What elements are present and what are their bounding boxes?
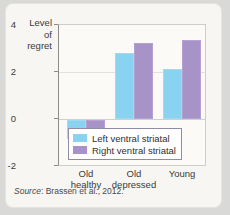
source-caption-text: : Brassen et al., 2012.	[41, 186, 124, 196]
y-axis-title: Level of regret	[10, 17, 52, 52]
y-tick-label-2: 2	[0, 66, 16, 77]
y-axis-title-line-2: of	[10, 29, 52, 41]
source-caption: Source: Brassen et al., 2012.	[14, 186, 124, 196]
x-tick-label-young: Young	[142, 168, 222, 179]
legend-label-left: Left ventral striatal	[92, 133, 170, 144]
legend-label-right: Right ventral striatal	[92, 145, 176, 156]
source-caption-prefix: Source	[14, 186, 41, 196]
chart-figure: Level of regret 4 2 0 -2	[6, 4, 221, 179]
figure-card: Level of regret 4 2 0 -2	[6, 4, 221, 207]
bar-old-depressed-left[interactable]	[115, 53, 134, 119]
legend-item-right-ventral-striatal[interactable]: Right ventral striatal	[73, 144, 176, 156]
y-tick-label-0: 0	[0, 113, 16, 124]
legend-swatch-right-icon	[73, 146, 87, 154]
legend-item-left-ventral-striatal[interactable]: Left ventral striatal	[73, 132, 176, 144]
y-axis-title-line-3: regret	[10, 40, 52, 52]
y-tick-label-4: 4	[0, 19, 16, 30]
legend-swatch-left-icon	[73, 134, 87, 142]
bar-young-left[interactable]	[163, 69, 182, 119]
y-tick-label-minus-2: -2	[0, 160, 16, 171]
bar-young-right[interactable]	[182, 40, 201, 119]
y-axis-title-line-1: Level	[10, 17, 52, 29]
chart-legend[interactable]: Left ventral striatal Right ventral stri…	[68, 128, 182, 160]
bar-old-depressed-right[interactable]	[134, 43, 153, 119]
x-tick-label-young-line-1: Young	[142, 168, 222, 179]
